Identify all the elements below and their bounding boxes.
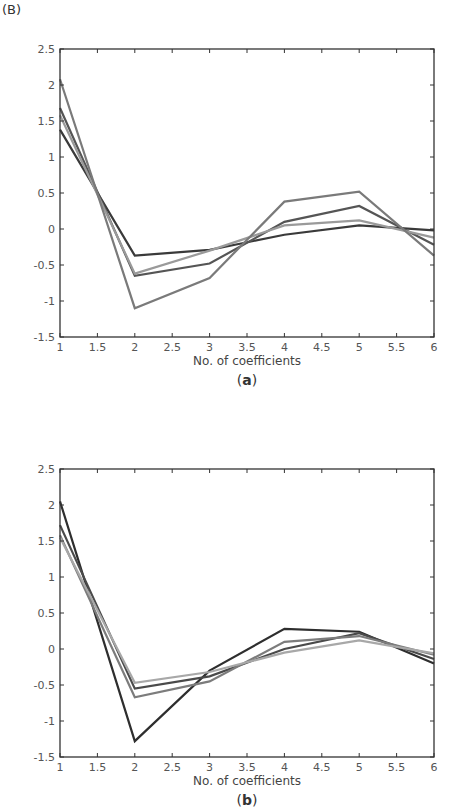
- x-tick-label: 5: [356, 341, 363, 354]
- y-tick-label: -0.5: [34, 679, 55, 692]
- y-tick-label: 1.5: [38, 115, 56, 128]
- x-tick-label: 4.5: [313, 761, 331, 774]
- chart-a: 11.522.533.544.555.562.521.510.50-0.5-1-…: [0, 0, 459, 400]
- y-axis-ticks: 2.521.510.50-0.5-1-1.5: [34, 43, 434, 344]
- x-axis-ticks: 11.522.533.544.555.56: [57, 469, 438, 774]
- y-tick-label: 2: [48, 79, 55, 92]
- chart-b: 11.522.533.544.555.562.521.510.50-0.5-1-…: [0, 400, 459, 810]
- y-tick-label: -0.5: [34, 259, 55, 272]
- x-axis-ticks: 11.522.533.544.555.56: [57, 49, 438, 354]
- series-lines: [60, 79, 434, 308]
- x-tick-label: 3.5: [238, 761, 256, 774]
- y-tick-label: 0: [48, 223, 55, 236]
- y-axis-ticks: 2.521.510.50-0.5-1-1.5: [34, 463, 434, 764]
- x-tick-label: 1: [57, 761, 64, 774]
- y-tick-label: 2.5: [38, 463, 56, 476]
- y-tick-label: 1: [48, 151, 55, 164]
- subfigure-caption: (a): [237, 372, 257, 388]
- x-axis-title: No. of coefficients: [193, 774, 301, 788]
- x-tick-label: 2.5: [163, 761, 181, 774]
- x-tick-label: 3: [206, 341, 213, 354]
- line-series-4: [60, 79, 434, 308]
- y-tick-label: 1: [48, 571, 55, 584]
- x-tick-label: 3: [206, 761, 213, 774]
- line-series-3: [60, 535, 434, 697]
- y-tick-label: 0.5: [38, 187, 56, 200]
- x-axis-title: No. of coefficients: [193, 354, 301, 368]
- x-tick-label: 4.5: [313, 341, 331, 354]
- y-tick-label: 2.5: [38, 43, 56, 56]
- x-tick-label: 5.5: [388, 341, 406, 354]
- x-tick-label: 5: [356, 761, 363, 774]
- series-lines: [60, 501, 434, 741]
- y-tick-label: -1.5: [34, 751, 55, 764]
- y-tick-label: -1.5: [34, 331, 55, 344]
- y-tick-label: -1: [44, 715, 55, 728]
- x-tick-label: 4: [281, 341, 288, 354]
- x-tick-label: 5.5: [388, 761, 406, 774]
- line-series-1: [60, 501, 434, 741]
- x-tick-label: 1: [57, 341, 64, 354]
- axes-frame: [60, 469, 434, 757]
- subfigure-caption: (b): [237, 792, 258, 808]
- y-tick-label: 0.5: [38, 607, 56, 620]
- x-tick-label: 6: [431, 761, 438, 774]
- axes-frame: [60, 49, 434, 337]
- x-tick-label: 2: [131, 761, 138, 774]
- line-series-2: [60, 525, 434, 688]
- y-tick-label: -1: [44, 295, 55, 308]
- y-tick-label: 0: [48, 643, 55, 656]
- x-tick-label: 6: [431, 341, 438, 354]
- x-tick-label: 4: [281, 761, 288, 774]
- y-tick-label: 2: [48, 499, 55, 512]
- line-series-1: [60, 130, 434, 256]
- x-tick-label: 2.5: [163, 341, 181, 354]
- x-tick-label: 2: [131, 341, 138, 354]
- y-tick-label: 1.5: [38, 535, 56, 548]
- x-tick-label: 3.5: [238, 341, 256, 354]
- x-tick-label: 1.5: [89, 761, 107, 774]
- x-tick-label: 1.5: [89, 341, 107, 354]
